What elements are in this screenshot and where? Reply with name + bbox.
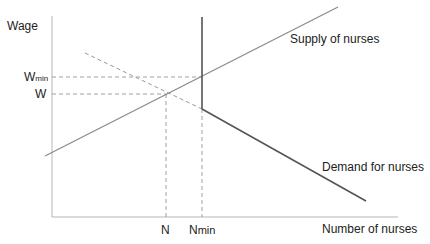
n-tick-label: N [161, 224, 170, 236]
w-min-tick-label: Wmin [24, 71, 48, 83]
demand-curve-solid [202, 109, 366, 201]
x-axis-label: Number of nurses [322, 223, 417, 235]
demand-label: Demand for nurses [322, 161, 424, 173]
supply-label: Supply of nurses [290, 33, 379, 45]
y-axis-label: Wage [7, 20, 38, 32]
supply-curve [45, 7, 338, 156]
n-min-main: N [189, 223, 198, 237]
n-min-tick-label: Nmin [189, 224, 215, 236]
w-min-sub: min [35, 74, 48, 83]
w-min-main: W [24, 70, 35, 84]
demand-curve-dashed [85, 53, 202, 109]
w-tick-label: W [35, 88, 46, 100]
n-min-sub: min [198, 224, 216, 236]
